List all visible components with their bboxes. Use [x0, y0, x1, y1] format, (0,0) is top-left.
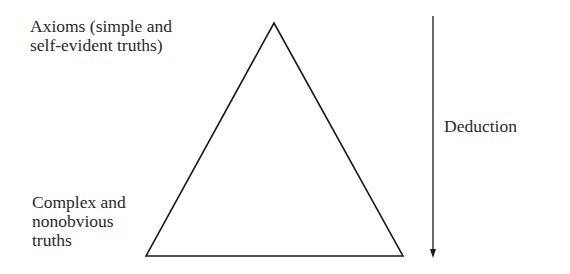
triangle-shape: [146, 23, 403, 256]
axioms-label-line-1: Axioms (simple and: [30, 17, 172, 36]
complex-label-line-3: truths: [32, 231, 126, 250]
complex-label-line-2: nonobvious: [32, 212, 126, 231]
axioms-label: Axioms (simple and self-evident truths): [30, 17, 172, 55]
axioms-label-line-2: self-evident truths): [30, 36, 172, 55]
complex-truths-label: Complex and nonobvious truths: [32, 193, 126, 250]
deduction-label: Deduction: [444, 117, 517, 136]
complex-label-line-1: Complex and: [32, 193, 126, 212]
deduction-arrowhead-icon: [430, 249, 436, 258]
